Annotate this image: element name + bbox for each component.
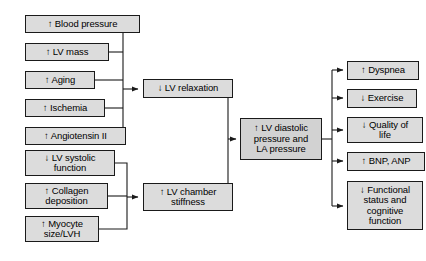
node-ischemia[interactable]: ↑ Ischemia (25, 99, 105, 117)
node-angiotensin-ii[interactable]: ↑ Angiotensin II (25, 127, 126, 145)
node-exercise[interactable]: ↓ Exercise (347, 89, 417, 108)
flowchart-canvas: ↑ Blood pressure ↑ LV mass ↑ Aging ↑ Isc… (0, 0, 426, 261)
wire-blood-pressure (123, 24, 140, 89)
node-myocyte-size-lvh[interactable]: ↑ Myocyte size/LVH (25, 216, 99, 242)
node-lv-chamber-stiffness[interactable]: ↑ LV chamber stiffness (143, 183, 233, 211)
node-blood-pressure[interactable]: ↑ Blood pressure (25, 15, 140, 33)
node-lv-diastolic-pressure[interactable]: ↑ LV diastolic pressure and LA pressure (240, 118, 322, 160)
node-functional-cognitive[interactable]: ↓ Functional status and cognitive functi… (347, 181, 423, 230)
node-lv-mass[interactable]: ↑ LV mass (25, 43, 109, 61)
node-lv-relaxation[interactable]: ↓ LV relaxation (143, 79, 233, 98)
node-quality-of-life[interactable]: ↓ Quality of life (347, 117, 423, 143)
node-dyspnea[interactable]: ↑ Dyspnea (347, 61, 419, 80)
wire-lv-systolic-function (115, 163, 127, 197)
node-lv-systolic-function[interactable]: ↓ LV systolic function (25, 150, 115, 176)
node-collagen-deposition[interactable]: ↑ Collagen deposition (25, 183, 108, 209)
node-bnp-anp[interactable]: ↑ BNP, ANP (347, 152, 425, 171)
node-aging[interactable]: ↑ Aging (25, 71, 95, 89)
